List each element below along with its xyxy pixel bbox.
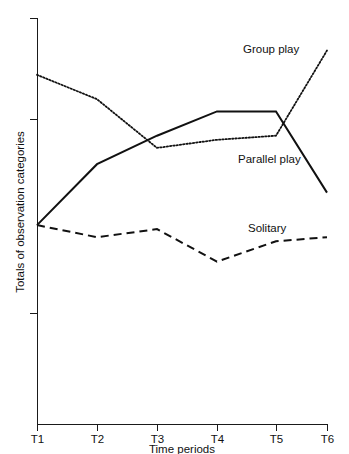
y-axis-title: Totals of observation categories xyxy=(14,131,26,293)
y-axis-ticks xyxy=(30,19,38,314)
line-chart: Group play Parallel play Solitary T1 T2 … xyxy=(0,0,349,454)
series-label-group-play: Group play xyxy=(243,43,300,55)
series-label-parallel-play: Parallel play xyxy=(238,153,301,165)
series-labels: Group play Parallel play Solitary xyxy=(238,43,301,234)
x-tick-label-t5: T5 xyxy=(270,433,283,445)
series-line-group-play xyxy=(37,51,327,148)
x-tick-label-t6: T6 xyxy=(321,433,334,445)
series-label-solitary: Solitary xyxy=(248,222,287,234)
x-tick-label-t1: T1 xyxy=(31,433,44,445)
x-axis-title: Time periods xyxy=(149,443,215,454)
series-line-parallel-play xyxy=(37,111,327,225)
x-tick-label-t2: T2 xyxy=(91,433,104,445)
